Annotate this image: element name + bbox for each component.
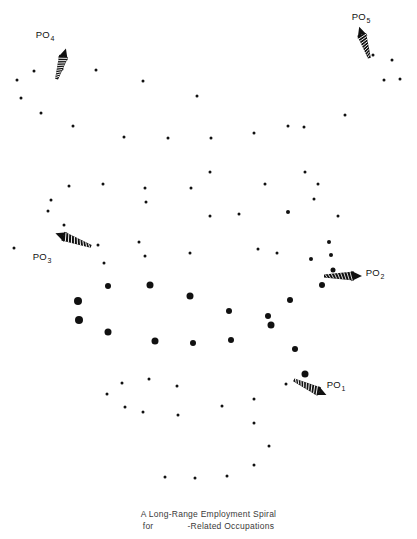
scatter-dot <box>121 382 124 385</box>
scatter-dot <box>194 477 197 480</box>
scatter-dot <box>265 313 271 319</box>
scatter-dot <box>292 346 298 352</box>
label-po2-text: PO <box>366 267 380 278</box>
scatter-dot <box>164 476 167 479</box>
scatter-dot <box>253 464 256 467</box>
scatter-dot <box>238 213 241 216</box>
scatter-dot <box>106 393 109 396</box>
scatter-dot <box>287 297 293 303</box>
scatter-dot <box>124 406 127 409</box>
scatter-dot <box>13 247 16 250</box>
figure-caption: A Long-Range Employment Spiral for-Relat… <box>0 508 417 532</box>
scatter-dot <box>286 210 290 214</box>
scatter-dot <box>337 215 340 218</box>
scatter-dot <box>190 340 196 346</box>
scatter-dot <box>268 445 271 448</box>
scatter-dot <box>102 183 105 186</box>
scatter-dot <box>344 114 347 117</box>
scatter-dot <box>20 97 23 100</box>
label-po4-subscript: 4 <box>51 34 55 41</box>
label-po3: PO3 <box>33 251 52 262</box>
annotation-po3 <box>93 236 145 258</box>
label-po2: PO2 <box>366 267 385 278</box>
scatter-dot <box>228 337 234 343</box>
scatter-dot <box>142 411 145 414</box>
scatter-dot <box>68 185 71 188</box>
label-po4: PO4 <box>36 29 55 40</box>
scatter-dot <box>221 405 224 408</box>
scatter-dot <box>72 125 75 128</box>
scatter-dot <box>142 80 145 83</box>
scatter-dot <box>257 248 260 251</box>
label-po5-text: PO <box>352 11 366 22</box>
scatter-dot <box>276 252 279 255</box>
scatter-dot <box>167 137 170 140</box>
label-po4-text: PO <box>36 29 50 40</box>
scatter-dot <box>47 210 50 213</box>
caption-line-2-suffix: -Related Occupations <box>187 521 274 531</box>
scatter-dot <box>210 137 213 140</box>
scatter-dot <box>176 385 179 388</box>
label-po1: PO1 <box>327 379 346 390</box>
scatter-dot <box>303 126 306 129</box>
scatter-dot <box>226 308 232 314</box>
scatter-dot <box>187 293 194 300</box>
scatter-dot <box>189 252 192 255</box>
scatter-dot <box>226 475 229 478</box>
scatter-dot <box>287 125 290 128</box>
annotation-po5 <box>370 49 417 71</box>
scatter-dot <box>209 215 212 218</box>
scatter-dot <box>123 136 126 139</box>
scatter-dot <box>327 240 331 244</box>
scatter-dot <box>40 112 43 115</box>
label-po1-text: PO <box>327 379 341 390</box>
label-po3-text: PO <box>33 251 47 262</box>
scatter-dot <box>148 378 151 381</box>
scatter-dot <box>253 422 256 425</box>
scatter-dot <box>313 198 316 201</box>
scatter-dot <box>147 282 154 289</box>
scatter-dot <box>264 183 267 186</box>
scatter-dot <box>16 79 19 82</box>
scatter-dot <box>144 187 147 190</box>
scatter-dot <box>50 199 53 202</box>
label-po3-subscript: 3 <box>48 256 52 263</box>
scatter-dot <box>74 297 82 305</box>
scatter-dot <box>177 414 180 417</box>
label-po5: PO5 <box>352 11 371 22</box>
scatter-dot <box>190 187 193 190</box>
label-po1-subscript: 1 <box>342 384 346 391</box>
annotation-po4 <box>56 70 102 92</box>
scatter-dot <box>268 322 275 329</box>
arrow-bundle-icon <box>287 369 342 410</box>
scatter-dot <box>103 262 106 265</box>
caption-line-2: for-Related Occupations <box>0 520 417 532</box>
scatter-dot <box>285 383 288 386</box>
label-po5-subscript: 5 <box>367 16 371 23</box>
scatter-dot <box>105 283 111 289</box>
scatter-dot <box>152 338 159 345</box>
employment-spiral-figure: PO1PO2PO3PO4PO5 A Long-Range Employment … <box>0 0 417 539</box>
scatter-dot <box>329 253 333 257</box>
scatter-dot <box>383 79 386 82</box>
scatter-dot <box>399 78 402 81</box>
scatter-dot <box>309 257 313 261</box>
scatter-dot <box>105 329 112 336</box>
caption-line-2-prefix: for <box>143 521 154 531</box>
scatter-dot <box>304 171 307 174</box>
scatter-dot <box>75 316 83 324</box>
scatter-dot <box>33 70 36 73</box>
scatter-dot <box>253 132 256 135</box>
scatter-dot <box>317 183 320 186</box>
caption-line-1: A Long-Range Employment Spiral <box>0 508 417 520</box>
scatter-dot <box>253 398 256 401</box>
scatter-dot <box>196 95 199 98</box>
scatter-dot <box>145 201 148 204</box>
scatter-dot <box>209 171 212 174</box>
label-po2-subscript: 2 <box>381 272 385 279</box>
